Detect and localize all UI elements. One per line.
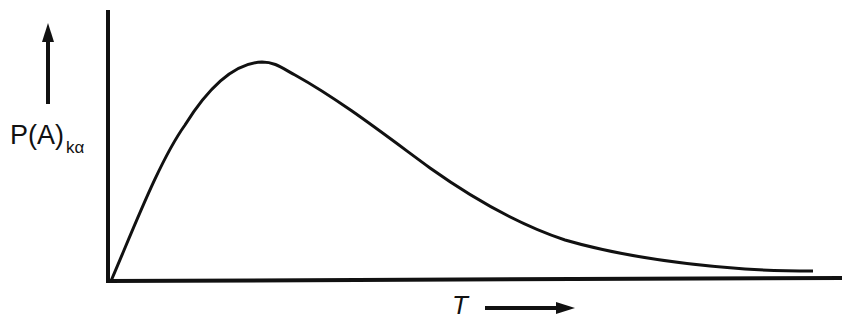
x-axis-label: T bbox=[452, 290, 468, 321]
y-direction-arrow-icon bbox=[42, 23, 54, 104]
y-axis-label-subscript: kα bbox=[66, 138, 84, 157]
y-axis-label-main: P(A) bbox=[10, 120, 64, 150]
x-axis bbox=[106, 278, 842, 281]
distribution-curve bbox=[111, 62, 813, 281]
chart-canvas bbox=[0, 0, 851, 326]
x-direction-arrow-icon bbox=[485, 302, 575, 314]
y-axis-label: P(A)kα bbox=[10, 120, 84, 151]
